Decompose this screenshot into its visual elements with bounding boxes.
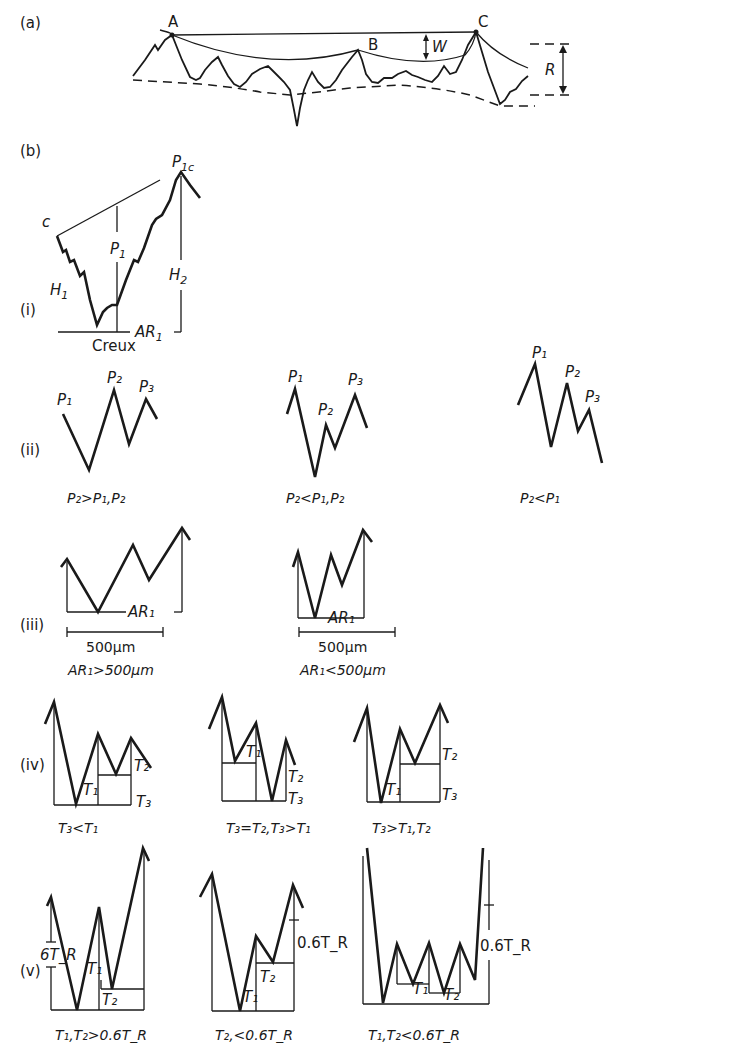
profile-iii-case-1 [61, 528, 190, 612]
panel-b-iv: (iv) T₁ T₂ T₃ T₃<T₁ T₁ T₂ T₃ T₃=T₂,T₃>T₁… [20, 697, 457, 836]
p1-label: P1 [110, 240, 126, 261]
iv-1-caption: T₃<T₁ [58, 820, 98, 836]
ii-2-p3: P₃ [348, 371, 363, 389]
p1c-label: P1c [172, 153, 194, 174]
panel-b-i: (b) (i) c P1c P1 H1 H2 AR1 Creux [20, 142, 200, 355]
h1-label: H1 [50, 281, 68, 302]
panel-b-ii-label: (ii) [20, 441, 40, 459]
v-1-t1: T₁ [87, 960, 102, 978]
ii-2-caption: P₂<P₁,P₂ [286, 490, 345, 506]
profile-ii-case-3 [518, 364, 602, 463]
h2-label: H2 [169, 266, 187, 287]
iv-3-t2: T₂ [442, 746, 457, 764]
v-2-tr-label: 0.6T_R [297, 934, 348, 953]
panel-b-v-label: (v) [20, 962, 41, 980]
ii-1-caption: P₂>P₁,P₂ [67, 490, 126, 506]
envelope-line-ac [172, 32, 476, 35]
panel-b-iii-label: (iii) [20, 616, 44, 634]
ar1-label: AR1 [134, 323, 163, 344]
point-b-label: B [368, 36, 378, 54]
iii-1-caption: AR₁>500µm [67, 662, 154, 678]
ii-3-p1: P₁ [532, 344, 547, 362]
lower-dashed-envelope [133, 80, 535, 106]
r-label: R [545, 61, 555, 79]
iv-3-t3: T₃ [442, 786, 457, 804]
point-a-label: A [168, 13, 179, 31]
ii-3-p2: P₂ [565, 363, 580, 381]
motif-profile-i [57, 172, 200, 325]
point-c-label: C [478, 13, 488, 31]
point-a-marker [170, 33, 175, 38]
ii-2-p1: P₁ [288, 368, 303, 386]
iv-2-t3: T₃ [288, 790, 303, 808]
profile-ii-case-1 [63, 390, 157, 470]
iv-3-caption: T₃>T₁,T₂ [372, 820, 431, 836]
v-2-caption: T₂,<0.6T_R [215, 1027, 293, 1043]
creux-label: Creux [92, 337, 136, 355]
v-3-t2: T₂ [444, 986, 459, 1004]
ii-1-p3: P₃ [139, 378, 154, 396]
iii-1-ar1: AR₁ [127, 603, 155, 621]
c-line [57, 180, 160, 236]
iii-2-caption: AR₁<500µm [299, 662, 386, 678]
surface-profile [133, 32, 528, 126]
panel-b-iii: (iii) AR₁ 500µm AR₁>500µm AR₁ 500µm AR₁<… [20, 528, 395, 678]
v-3-tr-label: 0.6T_R [480, 937, 531, 956]
v-1-tr-label: 6T_R [40, 946, 77, 965]
ii-1-p1: P₁ [57, 391, 72, 409]
roughness-motif-diagram: (a) R W A B C (b) (i) [0, 0, 746, 1060]
v-2-t2: T₂ [260, 968, 275, 986]
ii-3-p3: P₃ [585, 388, 600, 406]
panel-b-iv-label: (iv) [20, 756, 45, 774]
v-2-t1: T₁ [243, 988, 258, 1006]
iv-2-caption: T₃=T₂,T₃>T₁ [226, 820, 311, 836]
c-label: c [42, 213, 51, 231]
v-1-t2: T₂ [102, 991, 117, 1009]
panel-a: (a) R W A B C [20, 13, 570, 126]
iv-1-t2: T₂ [134, 757, 149, 775]
iv-3-t1: T₁ [386, 781, 401, 799]
iv-1-t1: T₁ [83, 781, 98, 799]
iii-2-ar1: AR₁ [327, 609, 355, 627]
arc-c-end [476, 32, 528, 68]
panel-a-label: (a) [20, 14, 41, 32]
iv-1-t3: T₃ [136, 793, 151, 811]
panel-b-i-label: (i) [20, 301, 36, 319]
v-1-caption: T₁,T₂>0.6T_R [55, 1027, 147, 1043]
iv-2-t1: T₁ [246, 743, 261, 761]
ii-2-p2: P₂ [318, 401, 333, 419]
panel-b-ii: (ii) P₁ P₂ P₃ P₂>P₁,P₂ P₁ P₂ P₃ P₂<P₁,P₂… [20, 344, 602, 506]
iii-2-scale-label: 500µm [318, 639, 367, 655]
ii-3-caption: P₂<P₁ [520, 490, 560, 506]
profile-iii-case-2 [293, 530, 372, 618]
iv-2-t2: T₂ [288, 768, 303, 786]
profile-v-case-1 [47, 848, 149, 1010]
panel-b-v: (v) 6T_R T₁ T₂ T₁,T₂>0.6T_R 0.6T_R T₁ T₂… [20, 848, 531, 1043]
ii-1-p2: P₂ [107, 369, 122, 387]
iii-1-scale-label: 500µm [86, 639, 135, 655]
panel-b-label: (b) [20, 142, 41, 160]
v-3-caption: T₁,T₂<0.6T_R [368, 1027, 460, 1043]
v-3-t1: T₁ [413, 980, 428, 998]
w-label: W [432, 38, 448, 56]
